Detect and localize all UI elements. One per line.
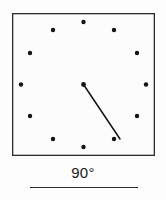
- hour-dot-6: [81, 145, 85, 149]
- hour-dot-3: [144, 82, 148, 86]
- clock-center-dot: [81, 82, 86, 87]
- hour-dot-8: [28, 114, 32, 118]
- caption-underline-rule: [30, 187, 138, 188]
- angle-caption-label: 90°: [0, 164, 166, 182]
- hour-dot-2: [135, 51, 139, 55]
- hour-dot-9: [19, 82, 23, 86]
- hour-dot-4: [135, 114, 139, 118]
- hour-dot-5: [112, 137, 116, 141]
- clock-angle-figure: 90°: [0, 0, 166, 200]
- hour-dot-1: [112, 28, 116, 32]
- hour-dot-11: [51, 28, 55, 32]
- hour-dot-12: [81, 20, 85, 24]
- hour-dot-10: [28, 51, 32, 55]
- hour-dot-7: [51, 137, 55, 141]
- clock-face-diagram: [0, 0, 166, 160]
